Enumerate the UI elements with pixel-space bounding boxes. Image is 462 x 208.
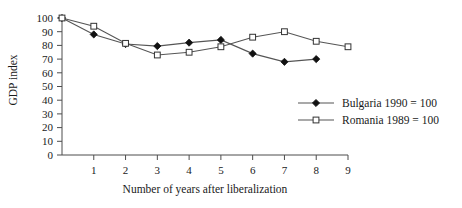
data-point-marker [313,38,319,44]
data-point-marker [186,39,193,46]
chart-legend: Bulgaria 1990 = 100Romania 1989 = 100 [298,97,439,126]
x-tick-label: 6 [250,164,256,176]
y-tick-label: 60 [42,67,54,79]
data-point-marker [154,42,161,49]
x-tick-label: 1 [91,164,97,176]
data-point-marker [313,117,319,123]
x-tick-label: 3 [155,164,161,176]
y-tick-label: 0 [48,149,54,161]
y-tick-label: 50 [42,80,54,92]
x-tick-label: 9 [345,164,351,176]
y-tick-label: 100 [37,12,54,24]
x-axis-ticks: 123456789 [91,155,351,176]
y-tick-label: 10 [42,135,54,147]
x-tick-label: 4 [186,164,192,176]
data-point-marker [90,31,97,38]
line-chart-plot: 0102030405060708090100 123456789 Bulgari… [0,0,462,208]
data-point-marker [345,44,351,50]
chart-figure: GDP index Number of years after liberali… [0,0,462,208]
data-point-marker [91,23,97,29]
data-point-marker [186,49,192,55]
data-point-marker [249,50,256,57]
x-tick-label: 2 [123,164,129,176]
y-tick-label: 80 [42,39,54,51]
x-tick-label: 8 [313,164,319,176]
y-axis-ticks: 0102030405060708090100 [37,12,63,161]
data-point-marker [218,44,224,50]
y-tick-label: 40 [42,94,54,106]
series-line [62,18,348,55]
data-series [58,14,319,65]
legend-label: Bulgaria 1990 = 100 [342,97,437,110]
legend-item: Bulgaria 1990 = 100 [298,97,437,110]
y-tick-label: 20 [42,121,54,133]
data-series-layer [58,14,351,65]
y-tick-label: 30 [42,108,54,120]
data-point-marker [312,99,319,106]
data-point-marker [59,15,65,21]
x-tick-label: 7 [282,164,288,176]
data-point-marker [281,58,288,65]
data-point-marker [313,56,320,63]
legend-label: Romania 1989 = 100 [342,114,439,126]
y-tick-label: 70 [42,53,54,65]
data-point-marker [217,36,224,43]
data-point-marker [123,40,129,46]
legend-item: Romania 1989 = 100 [298,114,439,126]
x-tick-label: 5 [218,164,224,176]
data-point-marker [282,29,288,35]
data-point-marker [154,52,160,58]
y-tick-label: 90 [42,26,54,38]
data-series [59,15,351,58]
data-point-marker [250,34,256,40]
